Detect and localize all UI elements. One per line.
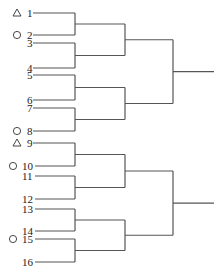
entry-label: 13	[22, 203, 34, 215]
tournament-bracket: 12345678910111213141516	[0, 0, 220, 276]
entry-label: 11	[22, 170, 33, 182]
triangle-icon	[13, 9, 21, 16]
triangle-icon	[13, 139, 21, 146]
entry-label: 15	[22, 233, 34, 245]
entry-labels: 12345678910111213141516	[9, 7, 33, 268]
circle-icon	[9, 235, 16, 242]
entry-label: 9	[27, 137, 33, 149]
entry-label: 5	[27, 69, 33, 81]
entry-label: 7	[27, 102, 33, 114]
entry-label: 3	[27, 37, 33, 49]
circle-icon	[13, 127, 20, 134]
circle-icon	[13, 31, 20, 38]
circle-icon	[9, 162, 16, 169]
entry-label: 16	[22, 256, 34, 268]
entry-label: 1	[27, 7, 33, 19]
entry-label: 8	[27, 125, 33, 137]
bracket-lines	[33, 13, 214, 262]
